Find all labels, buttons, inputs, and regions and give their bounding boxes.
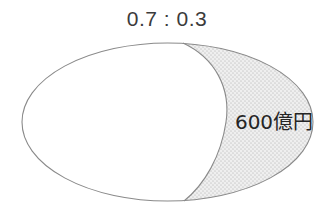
figure-root: 0.7 : 0.3 600億円 [0, 0, 334, 209]
ellipse-diagram [0, 0, 334, 209]
shaded-segment-value-label: 600億円 [231, 111, 317, 134]
